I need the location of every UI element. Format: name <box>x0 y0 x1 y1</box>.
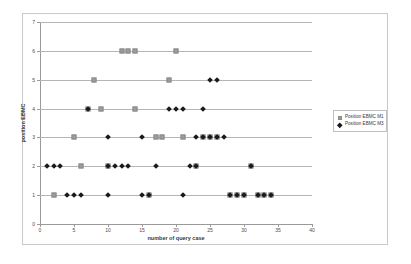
x-tick-label: 15 <box>139 228 145 233</box>
data-point-series-2 <box>180 192 186 198</box>
data-point-series-2 <box>173 106 179 112</box>
data-point-series-2 <box>105 192 111 198</box>
x-tick-label: 40 <box>309 228 315 233</box>
legend-label-m1: Position EBMC M1 <box>345 115 384 120</box>
data-point-series-1 <box>133 48 138 53</box>
y-tick-label: 7 <box>32 20 35 25</box>
y-tick-mark <box>37 109 40 110</box>
data-point-series-1 <box>174 48 179 53</box>
legend-item-m1[interactable]: Position EBMC M1 <box>337 114 383 121</box>
data-point-series-2 <box>112 163 118 169</box>
y-tick-mark <box>37 195 40 196</box>
data-point-series-2 <box>58 163 64 169</box>
data-point-series-2 <box>78 192 84 198</box>
y-axis-title: position EBMC <box>21 103 27 142</box>
y-tick-label: 4 <box>32 106 35 111</box>
data-point-series-1 <box>126 48 131 53</box>
data-point-series-1 <box>167 77 172 82</box>
data-point-series-2 <box>126 163 132 169</box>
square-marker-icon <box>337 114 345 121</box>
data-point-series-2 <box>139 135 145 141</box>
data-point-series-1 <box>180 135 185 140</box>
gridline <box>40 22 312 23</box>
data-point-series-2 <box>153 163 159 169</box>
y-tick-label: 6 <box>32 48 35 53</box>
y-tick-mark <box>37 166 40 167</box>
x-tick-label: 35 <box>275 228 281 233</box>
data-point-series-1 <box>153 135 158 140</box>
diamond-marker-icon <box>337 121 345 128</box>
data-point-series-1 <box>72 135 77 140</box>
data-point-series-2 <box>180 106 186 112</box>
data-point-series-2 <box>139 192 145 198</box>
x-axis-title: number of query case <box>40 236 312 242</box>
data-point-series-1 <box>99 106 104 111</box>
x-tick-label: 30 <box>241 228 247 233</box>
data-point-series-2 <box>105 135 111 141</box>
legend-item-m3[interactable]: Position EBMC M3 <box>337 121 383 128</box>
data-point-series-2 <box>44 163 50 169</box>
legend-label-m3: Position EBMC M3 <box>345 122 384 127</box>
x-tick-label: 5 <box>73 228 76 233</box>
data-point-series-2 <box>166 106 172 112</box>
x-tick-label: 25 <box>207 228 213 233</box>
y-tick-label: 5 <box>32 77 35 82</box>
data-point-series-2 <box>187 163 193 169</box>
data-point-series-2 <box>207 77 213 83</box>
y-tick-mark <box>37 51 40 52</box>
x-tick-label: 0 <box>39 228 42 233</box>
x-tick-label: 10 <box>105 228 111 233</box>
plot-area: 01234567 0510152025303540 <box>40 22 312 224</box>
y-tick-label: 2 <box>32 164 35 169</box>
data-point-series-1 <box>92 77 97 82</box>
data-point-series-2 <box>221 135 227 141</box>
y-tick-label: 1 <box>32 193 35 198</box>
gridline <box>40 137 312 138</box>
data-point-series-1 <box>78 164 83 169</box>
data-point-series-2 <box>119 163 125 169</box>
data-point-series-1 <box>133 106 138 111</box>
data-point-series-1 <box>119 48 124 53</box>
y-tick-label: 3 <box>32 135 35 140</box>
data-point-series-2 <box>200 106 206 112</box>
gridline <box>40 80 312 81</box>
y-tick-label: 0 <box>32 222 35 227</box>
data-point-series-1 <box>51 193 56 198</box>
x-tick-label: 20 <box>173 228 179 233</box>
chart-legend: Position EBMC M1 Position EBMC M3 <box>333 110 387 132</box>
data-point-series-1 <box>160 135 165 140</box>
y-tick-mark <box>37 80 40 81</box>
y-tick-mark <box>37 22 40 23</box>
y-tick-mark <box>37 137 40 138</box>
data-point-series-2 <box>194 135 200 141</box>
scatter-chart: 01234567 0510152025303540 position EBMC … <box>0 0 411 264</box>
data-point-series-2 <box>71 192 77 198</box>
data-point-series-2 <box>214 77 220 83</box>
data-point-series-2 <box>64 192 70 198</box>
data-point-series-2 <box>51 163 57 169</box>
